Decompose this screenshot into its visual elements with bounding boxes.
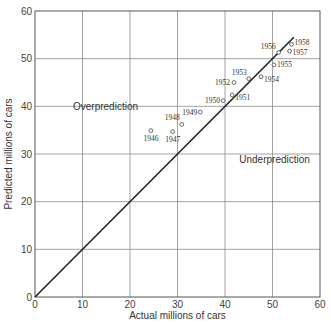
circle-marker-icon	[277, 51, 281, 55]
data-point: 1956	[261, 42, 281, 54]
point-year-label: 1952	[215, 78, 230, 87]
point-year-label: 1951	[235, 93, 250, 102]
x-tick-label: 0	[32, 299, 38, 310]
circle-marker-icon	[272, 63, 276, 67]
point-year-label: 1954	[264, 75, 279, 84]
y-axis-ticks: 0102030405060	[21, 6, 33, 303]
point-year-label: 1958	[295, 38, 310, 47]
data-points: 1946194719481949195019511952195319541955…	[143, 38, 309, 143]
x-axis-ticks: 0102030405060	[32, 299, 326, 310]
circle-marker-icon	[198, 110, 202, 114]
circle-marker-icon	[171, 130, 175, 134]
point-year-label: 1946	[143, 134, 158, 143]
x-tick-label: 20	[124, 299, 136, 310]
point-year-label: 1956	[261, 42, 276, 51]
y-tick-label: 10	[21, 244, 33, 255]
y-tick-label: 0	[26, 292, 32, 303]
circle-marker-icon	[288, 49, 292, 53]
point-year-label: 1947	[165, 135, 180, 144]
data-point: 1947	[165, 130, 180, 144]
circle-marker-icon	[221, 99, 225, 103]
point-year-label: 1948	[165, 113, 180, 122]
data-point: 1955	[272, 60, 292, 69]
y-tick-label: 50	[21, 53, 33, 64]
point-year-label: 1949	[182, 108, 197, 117]
circle-marker-icon	[149, 129, 153, 133]
x-tick-label: 50	[267, 299, 279, 310]
y-tick-label: 60	[21, 6, 33, 17]
data-point: 1958	[290, 38, 310, 47]
y-tick-label: 30	[21, 149, 33, 160]
data-point: 1953	[232, 68, 251, 81]
region-label: Underprediction	[239, 154, 310, 165]
circle-marker-icon	[259, 75, 263, 79]
circle-marker-icon	[247, 77, 251, 81]
data-point: 1949	[182, 108, 202, 117]
y-tick-label: 20	[21, 196, 33, 207]
x-axis-label: Actual millions of cars	[129, 310, 226, 321]
x-tick-label: 30	[172, 299, 184, 310]
circle-marker-icon	[232, 81, 236, 85]
data-point: 1950	[205, 96, 225, 105]
region-label: Overprediction	[73, 101, 138, 112]
data-point: 1948	[165, 113, 184, 126]
point-year-label: 1950	[205, 96, 220, 105]
circle-marker-icon	[180, 123, 184, 127]
data-point: 1954	[259, 75, 279, 84]
data-point: 1957	[288, 48, 308, 57]
x-tick-label: 40	[219, 299, 231, 310]
scatter-chart: 0102030405060 0102030405060 194619471948…	[0, 0, 331, 323]
x-tick-label: 60	[314, 299, 326, 310]
reference-line	[35, 37, 294, 297]
data-point: 1946	[143, 129, 158, 143]
point-year-label: 1957	[293, 48, 308, 57]
point-year-label: 1955	[277, 60, 292, 69]
y-tick-label: 40	[21, 101, 33, 112]
point-year-label: 1953	[232, 68, 247, 77]
circle-marker-icon	[230, 93, 234, 97]
y-axis-label: Predicted millions of cars	[3, 98, 14, 209]
data-point: 1952	[215, 78, 236, 87]
circle-marker-icon	[290, 42, 294, 46]
x-tick-label: 10	[77, 299, 89, 310]
